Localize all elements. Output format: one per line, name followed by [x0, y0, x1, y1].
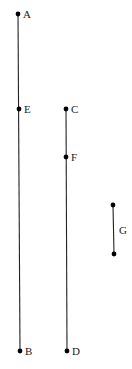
label-g: G: [119, 224, 127, 236]
segment-g: [113, 205, 114, 254]
point-g-top: [111, 203, 116, 208]
point-d: [65, 349, 70, 354]
segment-cd: [66, 109, 67, 351]
segment-ab: [18, 14, 20, 351]
point-b: [18, 349, 23, 354]
point-e: [17, 107, 22, 112]
label-d: D: [72, 345, 80, 357]
point-a: [16, 12, 21, 17]
label-b: B: [25, 345, 32, 357]
point-g-bottom: [112, 252, 117, 257]
label-a: A: [23, 8, 31, 20]
label-e: E: [24, 103, 31, 115]
label-c: C: [71, 103, 78, 115]
point-c: [64, 107, 69, 112]
point-f: [64, 155, 69, 160]
segment-diagram: A E B C F D G: [0, 0, 132, 369]
label-f: F: [71, 151, 77, 163]
